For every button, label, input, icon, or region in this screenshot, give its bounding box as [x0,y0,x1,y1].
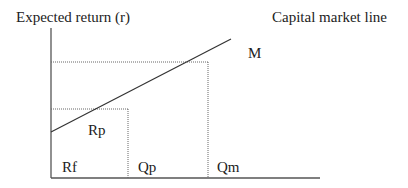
capital-market-line-diagram: Expected return (r) Capital market line … [0,0,408,188]
portfolio-quantity-label: Qp [138,160,156,175]
capital-market-line [51,39,231,132]
portfolio-return-label: Rp [88,123,106,138]
line-title: Capital market line [272,10,387,25]
risk-free-rate-label: Rf [62,160,77,175]
y-axis-title: Expected return (r) [16,10,130,25]
market-portfolio-label: M [248,46,261,61]
market-quantity-label: Qm [217,160,240,175]
